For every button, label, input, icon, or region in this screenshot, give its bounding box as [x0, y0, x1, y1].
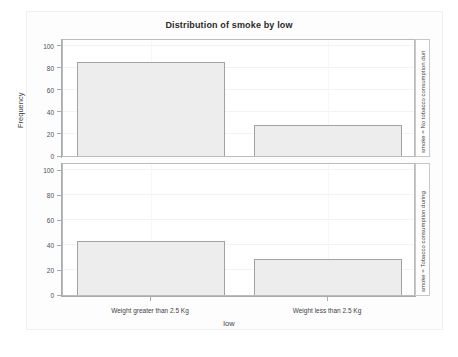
y-tick-label: 40 [47, 242, 54, 249]
y-tick-mark [57, 133, 61, 134]
bar [254, 259, 402, 295]
y-axis-line-top [61, 39, 62, 158]
gridline [63, 169, 414, 170]
y-tick-mark [57, 111, 61, 112]
y-axis-title: Frequency [16, 93, 25, 128]
plot-area-top [63, 40, 414, 156]
gridline [63, 194, 414, 195]
x-tick-label: Weight less than 2.5 Kg [293, 307, 362, 314]
facet-strip-top: smoke = No tobacco consumption duri [415, 39, 430, 157]
y-tick-mark [57, 295, 61, 296]
y-tick-label: 100 [43, 167, 54, 174]
x-tick-mark [327, 297, 328, 301]
x-tick-label: Weight greater than 2.5 Kg [111, 307, 189, 314]
y-tick-mark [57, 270, 61, 271]
chart-figure: Distribution of smoke by low 02040608010… [0, 0, 458, 357]
y-tick-mark [57, 195, 61, 196]
chart-title: Distribution of smoke by low [0, 20, 458, 30]
gridline [63, 219, 414, 220]
y-tick-mark [57, 156, 61, 157]
y-tick-label: 80 [47, 192, 54, 199]
y-axis-ticks-bottom: 020406080100 [0, 163, 61, 296]
y-tick-label: 80 [47, 64, 54, 71]
y-tick-label: 40 [47, 108, 54, 115]
plot-area-bottom [63, 164, 414, 295]
x-tick-mark [150, 297, 151, 301]
bar [77, 62, 225, 156]
x-axis-title: low [0, 319, 458, 328]
y-axis-ticks-top: 020406080100 [0, 39, 61, 157]
y-tick-mark [57, 170, 61, 171]
y-tick-mark [57, 67, 61, 68]
y-axis-line-bottom [61, 163, 62, 297]
y-tick-label: 60 [47, 86, 54, 93]
facet-panel-bottom [62, 163, 415, 296]
y-tick-label: 0 [50, 292, 54, 299]
bar [254, 125, 402, 156]
facet-strip-label-top: smoke = No tobacco consumption duri [420, 51, 426, 153]
y-tick-mark [57, 220, 61, 221]
x-axis-line [62, 296, 416, 297]
y-tick-label: 20 [47, 267, 54, 274]
facet-strip-label-bottom: smoke = Tobacco consumption during [420, 191, 426, 292]
y-tick-label: 20 [47, 130, 54, 137]
y-tick-label: 100 [43, 42, 54, 49]
y-tick-label: 0 [50, 153, 54, 160]
y-tick-mark [57, 245, 61, 246]
facet-strip-bottom: smoke = Tobacco consumption during [415, 163, 430, 296]
facet-panel-top [62, 39, 415, 157]
gridline [63, 45, 414, 46]
y-tick-label: 60 [47, 217, 54, 224]
y-tick-mark [57, 89, 61, 90]
y-tick-mark [57, 45, 61, 46]
bar [77, 241, 225, 295]
